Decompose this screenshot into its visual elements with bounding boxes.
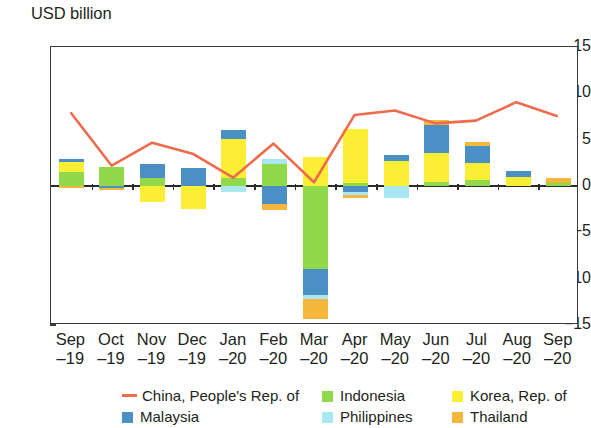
x-axis-label-year: ‒20	[537, 349, 578, 368]
legend-item[interactable]: Thailand	[452, 407, 528, 426]
x-axis-label-year: ‒19	[172, 349, 213, 368]
x-axis-label-month: Sep	[50, 330, 91, 349]
x-axis-label-month: Nov	[131, 330, 172, 349]
bar-segment-philippines	[384, 186, 409, 198]
legend-color-swatch	[452, 391, 463, 402]
bar-segment-thailand	[99, 188, 124, 190]
legend-line-marker	[122, 394, 137, 397]
x-axis-label-month: Aug	[497, 330, 538, 349]
x-tick-mark	[376, 184, 378, 190]
bar-group[interactable]	[221, 47, 246, 323]
bar-segment-thailand	[546, 178, 571, 183]
bar-group[interactable]	[262, 47, 287, 323]
x-tick-mark	[132, 184, 134, 190]
plot-area	[50, 46, 578, 324]
x-axis-label-month: Mar	[294, 330, 335, 349]
legend-item[interactable]: China, People's Rep. of	[122, 386, 299, 405]
x-axis-label-month: Feb	[253, 330, 294, 349]
x-axis-label-month: Oct	[91, 330, 132, 349]
legend-item[interactable]: Indonesia	[322, 386, 405, 405]
x-axis-label-year: ‒20	[375, 349, 416, 368]
bar-segment-korea-rep-of	[343, 129, 368, 184]
bar-group[interactable]	[99, 47, 124, 323]
bar-segment-indonesia	[262, 164, 287, 186]
bar-segment-malaysia	[424, 125, 449, 153]
bar-segment-thailand	[343, 195, 368, 198]
x-axis-label-year: ‒20	[497, 349, 538, 368]
x-axis-label-month: Sep	[537, 330, 578, 349]
x-axis-label: Oct‒19	[91, 330, 132, 368]
legend-item[interactable]: Malaysia	[122, 407, 199, 426]
x-axis-label-month: Jan	[212, 330, 253, 349]
x-axis-label-year: ‒20	[334, 349, 375, 368]
bar-segment-indonesia	[140, 178, 165, 186]
legend-color-swatch	[122, 412, 133, 423]
x-axis-label-year: ‒20	[416, 349, 457, 368]
bar-group[interactable]	[465, 47, 490, 323]
x-tick-mark	[295, 184, 297, 190]
bar-segment-malaysia	[506, 171, 531, 177]
x-axis-label: Mar‒20	[294, 330, 335, 368]
x-axis-label: Sep‒19	[50, 330, 91, 368]
bar-segment-korea-rep-of	[506, 177, 531, 186]
bar-group[interactable]	[384, 47, 409, 323]
bar-segment-malaysia	[140, 164, 165, 178]
bar-segment-korea-rep-of	[181, 186, 206, 209]
legend-item-label: Malaysia	[140, 408, 199, 425]
x-axis-label-year: ‒19	[91, 349, 132, 368]
x-tick-mark	[92, 184, 94, 190]
x-tick-mark	[254, 184, 256, 190]
legend-item-label: Philippines	[340, 408, 413, 425]
x-tick-mark	[173, 184, 175, 190]
chart-legend: China, People's Rep. ofIndonesiaKorea, R…	[122, 386, 562, 428]
x-axis-label-year: ‒20	[253, 349, 294, 368]
legend-item[interactable]: Philippines	[322, 407, 413, 426]
bar-segment-thailand	[59, 186, 84, 188]
x-tick-mark	[498, 184, 500, 190]
bar-group[interactable]	[546, 47, 571, 323]
bar-segment-malaysia	[384, 155, 409, 161]
bar-segment-korea-rep-of	[303, 157, 328, 186]
legend-item-label: Korea, Rep. of	[470, 387, 567, 404]
bar-segment-indonesia	[424, 182, 449, 186]
bar-segment-malaysia	[59, 159, 84, 162]
x-axis-label-month: Jul	[456, 330, 497, 349]
bar-segment-malaysia	[221, 130, 246, 138]
bar-segment-korea-rep-of	[384, 161, 409, 186]
x-axis-label: Jul‒20	[456, 330, 497, 368]
x-axis-label: Nov‒19	[131, 330, 172, 368]
x-axis-label-month: Apr	[334, 330, 375, 349]
bar-segment-indonesia	[59, 172, 84, 186]
legend-color-swatch	[322, 412, 333, 423]
x-axis-label-month: May	[375, 330, 416, 349]
bar-segment-malaysia	[181, 168, 206, 186]
legend-item[interactable]: Korea, Rep. of	[452, 386, 567, 405]
bar-group[interactable]	[343, 47, 368, 323]
bar-segment-philippines	[221, 186, 246, 192]
legend-color-swatch	[322, 391, 333, 402]
x-axis-label-month: Jun	[416, 330, 457, 349]
x-axis-label: Sep‒20	[537, 330, 578, 368]
bar-group[interactable]	[424, 47, 449, 323]
x-axis-label-year: ‒19	[131, 349, 172, 368]
bar-group[interactable]	[59, 47, 84, 323]
x-axis-label: Apr‒20	[334, 330, 375, 368]
bar-group[interactable]	[181, 47, 206, 323]
bar-group[interactable]	[303, 47, 328, 323]
x-tick-mark	[213, 184, 215, 190]
y-axis-title: USD billion	[31, 4, 112, 23]
bar-segment-thailand	[262, 204, 287, 210]
x-axis-label: May‒20	[375, 330, 416, 368]
bar-group[interactable]	[506, 47, 531, 323]
x-axis-label-year: ‒19	[50, 349, 91, 368]
x-axis-label: Aug‒20	[497, 330, 538, 368]
bar-segment-malaysia	[465, 146, 490, 163]
x-tick-mark	[335, 184, 337, 190]
bar-segment-malaysia	[303, 269, 328, 295]
x-axis-label: Jan‒20	[212, 330, 253, 368]
bar-segment-thailand	[465, 142, 490, 147]
x-axis-label: Feb‒20	[253, 330, 294, 368]
x-tick-mark	[457, 184, 459, 190]
bar-group[interactable]	[140, 47, 165, 323]
bar-segment-indonesia	[221, 178, 246, 186]
